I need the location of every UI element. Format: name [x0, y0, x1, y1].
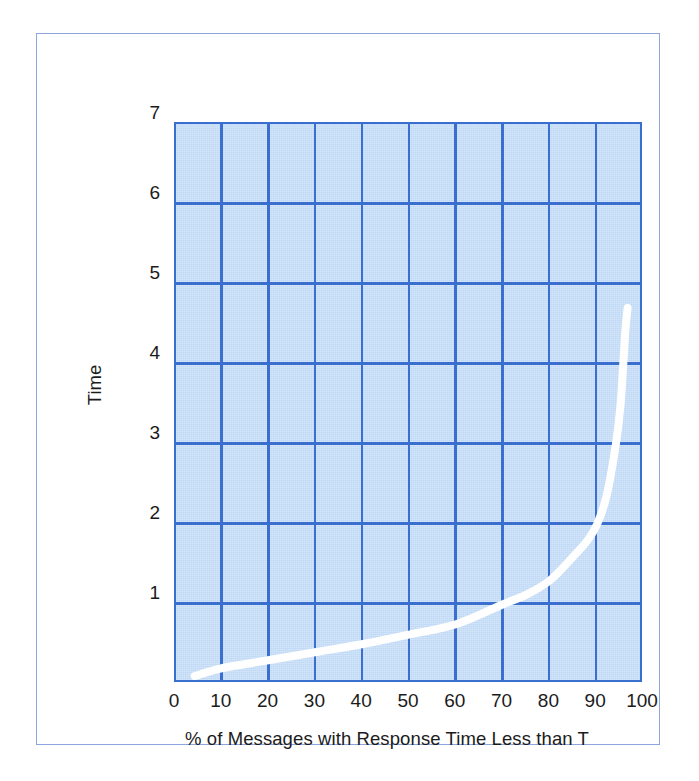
y-tick-label: 7 [132, 102, 160, 124]
y-tick-label: 5 [132, 262, 160, 284]
x-tick-label: 100 [612, 690, 672, 712]
y-tick-label: 6 [132, 182, 160, 204]
chart-figure: 7 6 5 4 3 2 1 0 10 20 30 40 50 60 70 80 … [0, 0, 699, 781]
data-curve [176, 124, 642, 682]
y-axis-label: Time [84, 325, 106, 445]
plot-area [174, 122, 642, 682]
figure-border-frame: 7 6 5 4 3 2 1 0 10 20 30 40 50 60 70 80 … [36, 33, 660, 745]
y-tick-label: 3 [132, 422, 160, 444]
y-tick-label: 4 [132, 342, 160, 364]
y-tick-label: 2 [132, 502, 160, 524]
y-tick-label: 1 [132, 582, 160, 604]
x-axis-label: % of Messages with Response Time Less th… [97, 728, 677, 750]
